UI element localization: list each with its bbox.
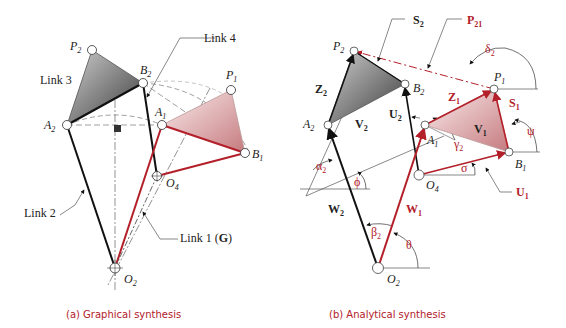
- ground-pivot-O4: [414, 170, 424, 180]
- label-Z1: Z1: [448, 90, 460, 106]
- label-B1: B1: [515, 157, 526, 173]
- label-W1: W1: [406, 202, 422, 218]
- leader-S2: [378, 19, 405, 61]
- label-W2: W2: [328, 202, 344, 218]
- label-alpha2: α2: [316, 159, 326, 175]
- label-link3: Link 3: [40, 73, 72, 87]
- coupler-position-2: [67, 50, 143, 125]
- label-theta: θ: [406, 238, 412, 252]
- label-B2: B2: [140, 63, 151, 79]
- label-O2: O2: [124, 272, 137, 288]
- joint-A1: [421, 121, 429, 129]
- caption-analytical: (b) Analytical synthesis: [329, 309, 446, 320]
- caption-graphical: (a) Graphical synthesis: [66, 309, 181, 320]
- ground-pivot-O4: [151, 170, 163, 182]
- leader-link2: [60, 190, 84, 215]
- label-P1: P1: [493, 70, 505, 86]
- label-P2: P2: [332, 39, 344, 55]
- link2-pos2: [67, 125, 115, 268]
- vector-W1: [378, 129, 424, 268]
- graphical-synthesis-diagram: Link 3 Link 4 Link 2 Link 1 (G) P2 B2 A2…: [24, 31, 263, 320]
- joint-B1: [505, 148, 513, 156]
- joint-A2: [324, 121, 332, 129]
- joint-P2: [350, 47, 358, 55]
- fourbar-synthesis-figure: Link 3 Link 4 Link 2 Link 1 (G) P2 B2 A2…: [0, 0, 566, 328]
- joint-A2: [63, 121, 72, 130]
- label-psi: ψ: [527, 124, 535, 138]
- joint-P1: [490, 85, 498, 93]
- joint-P1: [227, 86, 236, 95]
- joint-B2: [139, 79, 148, 88]
- leader-link4: [147, 38, 215, 97]
- label-O2: O2: [387, 272, 400, 288]
- joint-B2: [401, 80, 409, 88]
- leader-psi: [512, 122, 520, 124]
- label-phi: ϕ: [354, 175, 360, 189]
- label-sigma: σ: [461, 161, 468, 175]
- leader-P21: [428, 19, 462, 68]
- joint-A1: [158, 121, 167, 130]
- label-V2: V2: [355, 117, 368, 133]
- ground-pivot-O2: [373, 263, 384, 274]
- label-O4: O4: [166, 176, 179, 192]
- label-A1: A1: [154, 105, 166, 121]
- label-B1: B1: [252, 147, 263, 163]
- label-beta2: β2: [371, 225, 381, 241]
- label-U2: U2: [389, 107, 402, 123]
- link1-ground: [115, 176, 157, 268]
- label-P1: P1: [225, 68, 237, 84]
- label-gamma2: γ2: [453, 137, 463, 153]
- label-P21: P21: [467, 13, 482, 29]
- label-link4: Link 4: [204, 31, 236, 45]
- leader-U2: [412, 117, 420, 118]
- label-A1: A1: [426, 133, 438, 149]
- joint-B1: [241, 149, 250, 158]
- vector-W2: [329, 129, 378, 268]
- analytical-synthesis-diagram: S2 P21 δ2 P2 B2 P1 Z2 Z1 S1 U2 A2 V2 V1 …: [300, 13, 540, 320]
- label-P2: P2: [69, 39, 81, 55]
- right-angle-marker: [114, 125, 121, 132]
- label-B2: B2: [413, 81, 424, 97]
- label-delta2: δ2: [485, 42, 495, 58]
- coupler-position-1: [162, 90, 245, 153]
- label-O4: O4: [426, 178, 439, 194]
- ref-line-phi: [306, 136, 444, 196]
- leader-link1: [143, 212, 178, 239]
- vector-U2: [405, 88, 419, 175]
- joint-P2: [88, 46, 97, 55]
- link2-pos1: [115, 125, 162, 268]
- arc-sigma: [472, 163, 475, 175]
- label-S2: S2: [413, 13, 424, 29]
- ground-pivot-O2: [107, 260, 123, 276]
- label-link1: Link 1 (G): [180, 231, 232, 245]
- leader-U1: [486, 168, 512, 192]
- label-A2: A2: [302, 117, 314, 133]
- label-S1: S1: [509, 96, 520, 112]
- label-U1: U1: [516, 185, 529, 201]
- label-Z2: Z2: [315, 82, 327, 98]
- label-link2: Link 2: [24, 206, 56, 220]
- label-A2: A2: [43, 118, 55, 134]
